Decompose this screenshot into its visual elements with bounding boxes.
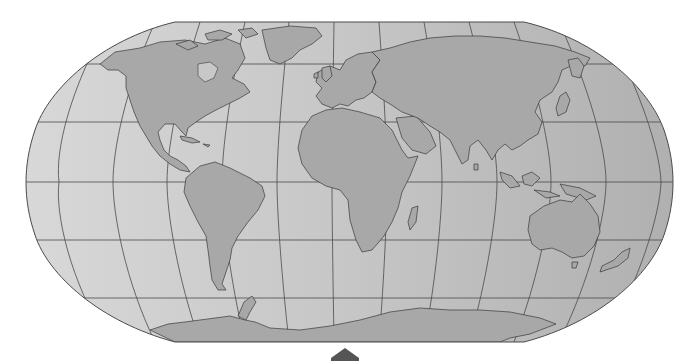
up-arrow-marker-icon[interactable] xyxy=(331,348,359,361)
world-map[interactable] xyxy=(0,0,696,361)
sri-lanka xyxy=(474,164,478,170)
